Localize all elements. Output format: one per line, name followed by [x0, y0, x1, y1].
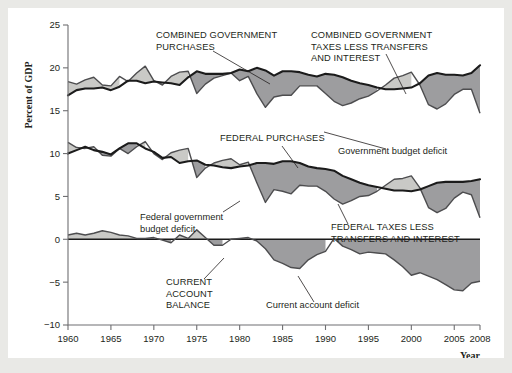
annotation-current-account-deficit: Current account deficit — [266, 276, 359, 310]
chart-svg: 2520151050−5−101960196519701975198019851… — [8, 8, 504, 358]
current-account-deficit-area — [253, 239, 326, 268]
annotation-text: BALANCE — [166, 300, 210, 310]
x-tick-label: 1970 — [143, 333, 164, 344]
x-tick-label: 2008 — [469, 333, 490, 344]
annotation-text: Federal government — [140, 212, 224, 222]
annotation-text: FEDERAL PURCHASES — [220, 133, 325, 143]
x-tick-label: 1980 — [229, 333, 250, 344]
chart-bands — [68, 65, 480, 290]
y-tick-label: −5 — [49, 277, 60, 288]
x-axis-label: Year — [460, 350, 481, 358]
y-tick-label: 25 — [49, 19, 60, 30]
annotation-text: FEDERAL TAXES LESS — [331, 222, 434, 232]
annotation-text: TAXES LESS TRANSFERS — [311, 42, 428, 52]
annotation-text: Current account deficit — [266, 300, 359, 310]
leader-line — [204, 258, 224, 279]
annotation-text: TRANSFERS AND INTEREST — [331, 234, 460, 244]
y-tick-label: 5 — [55, 191, 60, 202]
x-tick-label: 1990 — [315, 333, 336, 344]
x-tick-label: 1975 — [186, 333, 207, 344]
leader-line — [223, 201, 240, 212]
x-tick-label: 1985 — [272, 333, 293, 344]
annotation-text: budget deficit — [140, 224, 196, 234]
x-tick-label: 1995 — [358, 333, 379, 344]
current-account-deficit-area — [335, 239, 480, 290]
annotation-text: CURRENT — [166, 277, 212, 287]
figure-panel: 2520151050−5−101960196519701975198019851… — [8, 8, 504, 358]
x-tick-label: 1965 — [100, 333, 121, 344]
x-tick-label: 1960 — [57, 333, 78, 344]
y-axis-label: Percent of GDP — [23, 61, 34, 128]
y-tick-label: 10 — [49, 148, 60, 159]
y-tick-label: 0 — [55, 234, 60, 245]
y-tick-label: 20 — [49, 62, 60, 73]
annotation-text: ACCOUNT — [166, 289, 213, 299]
annotation-text: PURCHASES — [156, 42, 215, 52]
x-tick-label: 2005 — [444, 333, 465, 344]
y-tick-label: 15 — [49, 105, 60, 116]
annotation-text: COMBINED GOVERNMENT — [311, 30, 432, 40]
annotation-text: COMBINED GOVERNMENT — [156, 30, 277, 40]
leader-line — [298, 276, 314, 302]
leader-line — [338, 204, 348, 224]
annotation-text: Government budget deficit — [338, 146, 447, 156]
annotation-federal-government-budget-deficit: Federal governmentbudget deficit — [140, 201, 240, 234]
annotation-current-account-balance: CURRENTACCOUNTBALANCE — [166, 258, 224, 310]
current-account-deficit-area — [207, 239, 222, 245]
y-tick-label: −10 — [44, 319, 60, 330]
x-tick-label: 2000 — [401, 333, 422, 344]
annotation-government-budget-deficit: Government budget deficit — [324, 132, 447, 156]
annotation-text: AND INTEREST — [311, 53, 381, 63]
